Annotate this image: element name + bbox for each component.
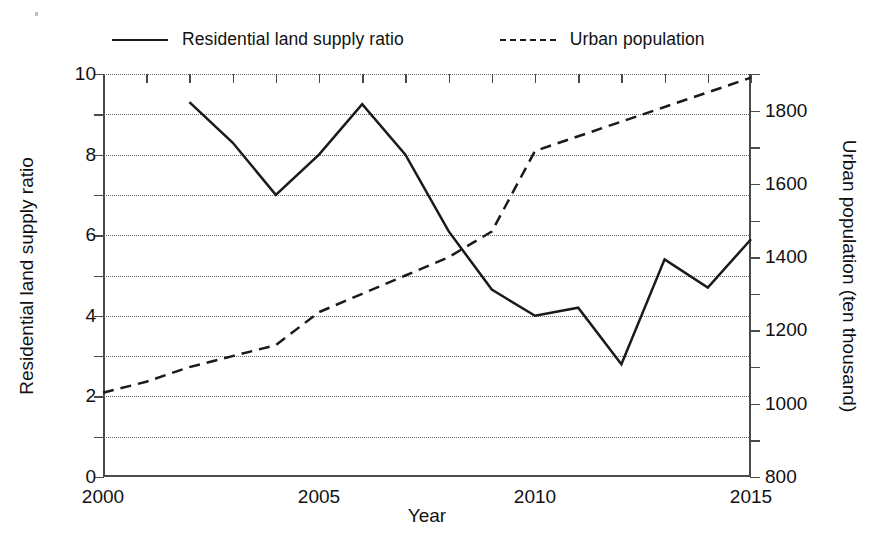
x-axis-tick-label: 2010 [514,486,556,508]
y-axis-right-title: Urban population (ten thousand) [836,74,862,477]
y-axis-right-tick [750,367,760,368]
x-axis-title: Year [103,505,751,527]
legend-line-sample-solid-icon [112,32,168,46]
series-line-residential-land-supply-ratio [189,102,751,364]
y-axis-left-tick-label: 6 [85,224,96,246]
y-axis-left-tick-label: 8 [85,144,96,166]
y-axis-right-tick [750,147,760,148]
y-axis-right-tick [750,221,760,222]
y-axis-right-tick [750,294,760,295]
y-axis-right-tick [750,257,760,258]
y-axis-right-tick [750,477,760,478]
y-axis-right-tick-label: 1400 [765,246,807,268]
chart-figure: Residential land supply ratio Urban popu… [0,0,883,545]
legend-line-sample-dashed-icon [500,32,556,46]
y-axis-left-tick-label: 10 [75,63,96,85]
legend-label-residential-land-supply-ratio: Residential land supply ratio [182,29,404,50]
y-axis-right-tick [750,184,760,185]
scan-artifact [35,12,38,16]
y-axis-right-tick [750,404,760,405]
y-axis-right-tick [750,111,760,112]
y-axis-right-tick-label: 1000 [765,393,807,415]
series-line-urban-population [103,78,751,393]
y-axis-right-tick-label: 1200 [765,319,807,341]
y-axis-right-tick-label: 1600 [765,173,807,195]
legend-item-residential-land-supply-ratio: Residential land supply ratio [112,29,404,50]
y-axis-right-tick-label: 800 [765,466,797,488]
y-axis-left-tick-label: 2 [85,385,96,407]
plot-area: 0246810 80010001200140016001800 20002005… [103,74,751,477]
y-axis-right-tick-label: 1800 [765,100,807,122]
y-axis-left-tick-label: 0 [85,466,96,488]
y-axis-right-title-text: Urban population (ten thousand) [838,139,860,412]
chart-legend: Residential land supply ratio Urban popu… [0,22,883,56]
y-axis-right-tick [750,440,760,441]
legend-label-urban-population: Urban population [570,29,705,50]
series-lines [103,74,751,477]
y-axis-left-title: Residential land supply ratio [14,74,40,477]
x-axis-tick-label: 2005 [298,486,340,508]
y-axis-left-title-text: Residential land supply ratio [16,157,38,395]
legend-item-urban-population: Urban population [500,29,705,50]
y-axis-left-tick-label: 4 [85,305,96,327]
y-axis-right-tick [750,330,760,331]
x-axis-tick-label: 2000 [82,486,124,508]
x-axis-tick-label: 2015 [730,486,772,508]
